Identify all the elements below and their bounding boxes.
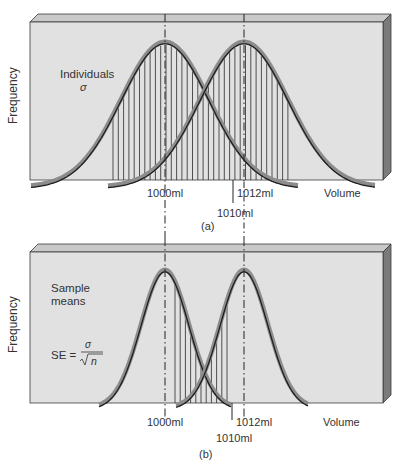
panel-a-tick-1000: 1000ml	[147, 187, 183, 199]
panel-a-side-face	[383, 14, 391, 180]
panel-a-tick-1012: 1012ml	[237, 187, 273, 199]
panel-b-se-n: n	[91, 355, 97, 367]
panel-b-tick-1010: 1010ml	[216, 432, 252, 444]
panel-b-caption: (b)	[199, 448, 212, 460]
panel-a-annotation-sigma: σ	[80, 81, 87, 93]
panel-b-xlabel: Volume	[323, 416, 360, 428]
panel-b	[30, 238, 391, 420]
chart-canvas: Frequency Individuals σ 1000ml 1012ml 10…	[0, 0, 401, 466]
panel-a-caption: (a)	[201, 220, 214, 232]
panel-a-front-face	[30, 22, 383, 180]
panel-a-xlabel: Volume	[324, 187, 361, 199]
panel-a-tick-1010: 1010ml	[217, 207, 253, 219]
panel-b-annotation-sample: Sample	[51, 282, 90, 294]
panel-b-tick-1000: 1000ml	[147, 416, 183, 428]
panel-b-tick-1012: 1012ml	[236, 416, 272, 428]
panel-a-annotation-individuals: Individuals	[60, 68, 115, 80]
panel-b-top-face	[30, 244, 391, 252]
panel-b-se-sigma: σ	[85, 339, 92, 350]
panel-b-annotation-means: means	[51, 295, 86, 307]
panel-a	[30, 14, 391, 238]
figure: Frequency Individuals σ 1000ml 1012ml 10…	[0, 0, 401, 466]
panel-a-ylabel: Frequency	[6, 67, 20, 124]
panel-b-side-face	[383, 244, 391, 403]
panel-a-top-face	[30, 14, 391, 22]
panel-b-se-label: SE =	[51, 349, 77, 361]
panel-b-ylabel: Frequency	[6, 296, 20, 353]
